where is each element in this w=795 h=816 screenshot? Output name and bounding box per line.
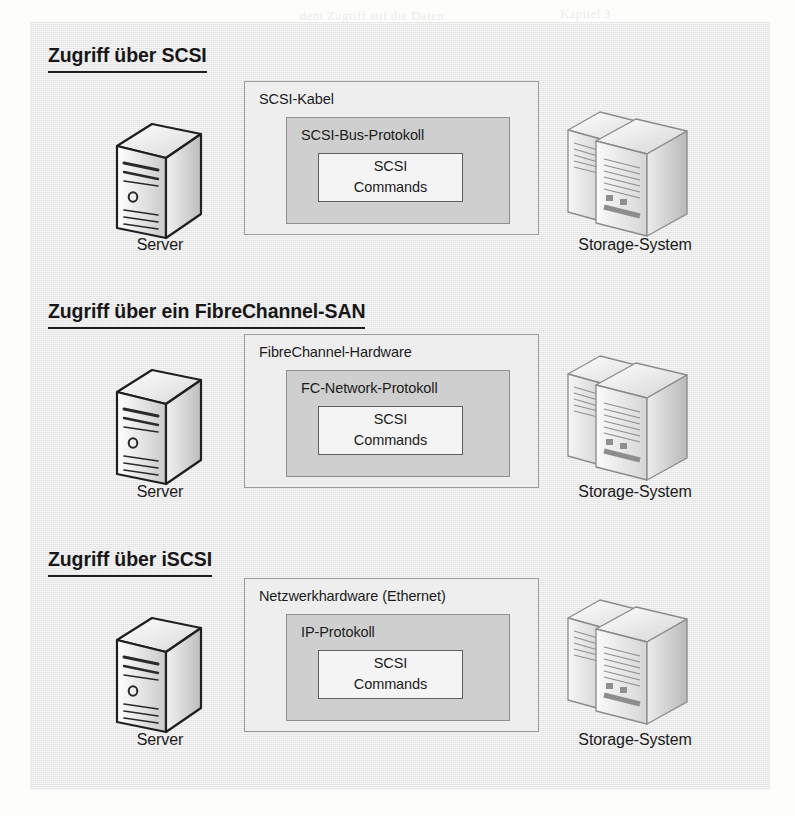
middle-protocol-box: IP-Protokoll SCSI Commands [286, 614, 510, 721]
storage-label: Storage-System [550, 236, 720, 254]
section-heading: Zugriff über SCSI [48, 44, 207, 73]
heading-underline [48, 71, 207, 73]
scanned-page: Kapitel 3 dem Zugriff auf die Daten SCSI… [0, 0, 795, 816]
section-heading-text: Zugriff über ein FibreChannel-SAN [48, 300, 365, 322]
outer-box-label: SCSI-Kabel [259, 91, 334, 107]
middle-box-label: FC-Network-Protokoll [301, 380, 438, 396]
inner-box-line-2: Commands [354, 431, 427, 451]
bleed-text: Kapitel 3 [560, 6, 611, 22]
server-tower-icon [100, 118, 220, 252]
server-tower-icon [100, 612, 220, 746]
inner-box-line-2: Commands [354, 675, 427, 695]
section-heading: Zugriff über ein FibreChannel-SAN [48, 300, 365, 329]
section-scsi: Zugriff über SCSI [30, 22, 770, 278]
server-label: Server [100, 236, 220, 254]
heading-underline [48, 327, 365, 329]
outer-box-label: Netzwerkhardware (Ethernet) [259, 588, 446, 604]
storage-array-icon [560, 104, 705, 253]
section-heading: Zugriff über iSCSI [48, 548, 212, 577]
inner-commands-box: SCSI Commands [318, 406, 463, 455]
section-iscsi: Zugriff über iSCSI [30, 526, 770, 790]
inner-commands-box: SCSI Commands [318, 153, 463, 202]
inner-commands-box: SCSI Commands [318, 650, 463, 699]
inner-box-line-1: SCSI [374, 157, 407, 177]
outer-protocol-box: Netzwerkhardware (Ethernet) IP-Protokoll… [244, 578, 539, 732]
storage-label: Storage-System [550, 731, 720, 749]
server-label: Server [100, 731, 220, 749]
storage-array-icon [560, 592, 705, 741]
middle-protocol-box: SCSI-Bus-Protokoll SCSI Commands [286, 117, 510, 224]
outer-protocol-box: SCSI-Kabel SCSI-Bus-Protokoll SCSI Comma… [244, 81, 539, 235]
server-label: Server [100, 483, 220, 501]
inner-box-line-2: Commands [354, 178, 427, 198]
storage-label: Storage-System [550, 483, 720, 501]
figure-panel: Zugriff über SCSI [30, 22, 770, 790]
inner-box-line-1: SCSI [374, 410, 407, 430]
storage-array-icon [560, 348, 705, 497]
section-fibrechannel: Zugriff über ein FibreChannel-SAN [30, 278, 770, 526]
inner-box-line-1: SCSI [374, 654, 407, 674]
section-heading-text: Zugriff über iSCSI [48, 548, 212, 570]
heading-underline [48, 575, 212, 577]
middle-box-label: IP-Protokoll [301, 624, 375, 640]
middle-protocol-box: FC-Network-Protokoll SCSI Commands [286, 370, 510, 477]
outer-protocol-box: FibreChannel-Hardware FC-Network-Protoko… [244, 334, 539, 488]
outer-box-label: FibreChannel-Hardware [259, 344, 412, 360]
section-heading-text: Zugriff über SCSI [48, 44, 207, 66]
middle-box-label: SCSI-Bus-Protokoll [301, 127, 424, 143]
server-tower-icon [100, 364, 220, 498]
